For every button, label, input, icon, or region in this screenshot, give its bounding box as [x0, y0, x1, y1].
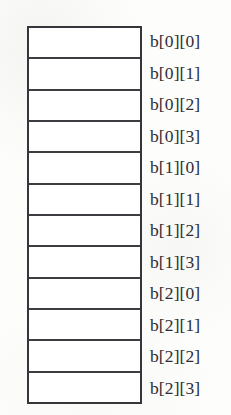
- array-cell: [29, 310, 140, 341]
- array-cell-label: b[1][1]: [150, 184, 231, 216]
- array-cell: [29, 59, 140, 90]
- array-cell: [29, 153, 140, 184]
- array-layout-figure: b[0][0] b[0][1] b[0][2] b[0][3] b[1][0] …: [0, 0, 231, 415]
- array-cell-label: b[2][0]: [150, 278, 231, 310]
- array-cell-label: b[0][1]: [150, 58, 231, 90]
- array-cell-label: b[0][2]: [150, 89, 231, 121]
- array-cell: [29, 28, 140, 59]
- array-cell-label: b[1][3]: [150, 247, 231, 279]
- array-cell-stack: [27, 26, 142, 404]
- array-label-column: b[0][0] b[0][1] b[0][2] b[0][3] b[1][0] …: [150, 26, 231, 404]
- array-cell-label: b[2][3]: [150, 373, 231, 405]
- array-cell-label: b[0][3]: [150, 121, 231, 153]
- array-cell: [29, 216, 140, 247]
- array-cell: [29, 185, 140, 216]
- array-cell-label: b[2][2]: [150, 341, 231, 373]
- array-cell: [29, 279, 140, 310]
- array-cell: [29, 91, 140, 122]
- array-cell: [29, 341, 140, 372]
- array-cell-label: b[1][2]: [150, 215, 231, 247]
- array-cell: [29, 373, 140, 402]
- array-cell-label: b[1][0]: [150, 152, 231, 184]
- array-cell: [29, 122, 140, 153]
- array-cell: [29, 247, 140, 278]
- array-cell-label: b[0][0]: [150, 26, 231, 58]
- array-cell-label: b[2][1]: [150, 310, 231, 342]
